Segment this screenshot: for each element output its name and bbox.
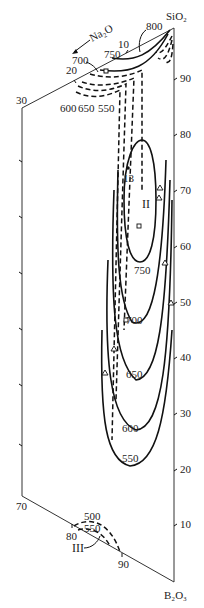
- isotherm-dashed-apex-3: [166, 44, 173, 62]
- label-700-main: 700: [126, 314, 143, 326]
- label-550-main: 550: [122, 452, 139, 464]
- bottom-edge: [22, 496, 174, 582]
- tick-70: 70: [180, 184, 192, 196]
- label-550-upper: 550: [98, 102, 115, 114]
- point-13-dot: [126, 166, 130, 170]
- region-II-label: II: [142, 197, 150, 211]
- label-500-lower: 500: [84, 510, 101, 522]
- triangle-marker-5: [111, 346, 117, 351]
- triangle-marker-2: [156, 195, 162, 200]
- leader-800: [139, 30, 146, 52]
- square-marker-region-2: [137, 224, 141, 228]
- na2o-label: Na₂O: [87, 22, 114, 44]
- isotherm-650-upper: [82, 78, 134, 330]
- sio2-axis-labels: 90 80 70 60 50 40 30 20 10: [180, 72, 192, 530]
- tick-50: 50: [180, 296, 192, 308]
- label-700-upper: 700: [72, 54, 89, 66]
- label-750-main: 750: [134, 264, 151, 276]
- label-600-main: 600: [122, 422, 139, 434]
- label-600-upper: 600: [60, 102, 77, 114]
- tick-80: 80: [180, 128, 192, 140]
- label-650-upper: 650: [78, 102, 95, 114]
- left-tick-70: 70: [16, 500, 28, 512]
- tick-90: 90: [180, 72, 192, 84]
- tick-10: 10: [180, 518, 192, 530]
- bottom-tick-90: 90: [118, 558, 130, 570]
- tick-40: 40: [180, 351, 192, 363]
- label-800: 800: [146, 20, 163, 32]
- tick-20: 20: [180, 463, 192, 475]
- isotherm-dashed-apex-2: [158, 40, 172, 59]
- triangle-marker-6: [102, 370, 108, 375]
- region-III-leader: [84, 536, 100, 548]
- isotherm-700-upper: [90, 70, 142, 190]
- na2o-tick-30: 30: [16, 94, 28, 106]
- region-III-label: III: [72, 541, 84, 555]
- label-550-lower: 550: [84, 522, 101, 534]
- upper-isotherms: [76, 30, 173, 440]
- b2o3-corner-label: B₂O₃: [164, 589, 187, 601]
- marker-square-upper: [104, 69, 108, 73]
- sio2-corner-label: SiO₂: [166, 10, 187, 22]
- label-650-main: 650: [126, 368, 143, 380]
- point-13-label: 13: [123, 172, 135, 184]
- triangle-marker-1: [157, 185, 163, 190]
- tick-60: 60: [180, 240, 192, 252]
- tick-30: 30: [180, 407, 192, 419]
- phase-diagram: 90 80 70 60 50 40 30 20 10 SiO₂ B₂O₃ Na₂…: [0, 0, 204, 608]
- label-750-upper: 750: [104, 48, 121, 60]
